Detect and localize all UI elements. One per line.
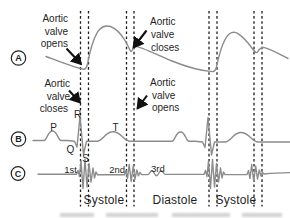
annotation-line: valve bbox=[152, 90, 176, 101]
annotation-aortic-valve-opens-right: Aortic valve opens bbox=[150, 77, 179, 113]
row-marker-c: C bbox=[11, 167, 25, 181]
ecg-label-q: Q bbox=[67, 144, 75, 155]
sound-label-2nd: 2nd bbox=[109, 164, 125, 175]
arrow-aortic-valve-opens-beat1 bbox=[67, 49, 82, 65]
annotation-line: valve bbox=[47, 91, 71, 102]
annotation-aortic-valve-opens-left: Aortic valve opens bbox=[41, 13, 69, 49]
phase-label-systole-1: Systole bbox=[84, 193, 125, 207]
phase-label-systole-2: Systole bbox=[216, 193, 257, 207]
annotation-aortic-valve-closes-top: Aortic valve closes bbox=[150, 16, 179, 53]
annotation-line: Aortic bbox=[150, 77, 176, 88]
cropped-caption-blur bbox=[56, 212, 284, 217]
ecg-label-r: R bbox=[74, 109, 81, 120]
annotation-line: Aortic bbox=[150, 16, 176, 27]
row-marker-b-letter: B bbox=[15, 134, 22, 144]
row-marker-b: B bbox=[11, 132, 25, 146]
row-marker-c-letter: C bbox=[15, 169, 22, 179]
ecg-label-s: S bbox=[82, 153, 89, 164]
annotation-line: opens bbox=[41, 38, 68, 49]
ecg-label-t: T bbox=[112, 122, 118, 133]
annotation-line: closes bbox=[151, 42, 179, 53]
cardiac-phase-labels: Systole Diastole Systole bbox=[84, 193, 257, 207]
annotation-line: opens bbox=[152, 102, 179, 113]
row-marker-a-letter: A bbox=[15, 53, 22, 63]
phase-label-diastole: Diastole bbox=[153, 193, 198, 207]
annotation-line: valve bbox=[151, 29, 175, 40]
cardiac-cycle-figure: Aortic valve opens Aortic valve closes A… bbox=[0, 0, 290, 218]
arrow-aortic-valve-closes-left bbox=[69, 91, 80, 103]
annotation-line: closes bbox=[40, 103, 68, 114]
annotation-line: Aortic bbox=[44, 78, 70, 89]
ecg-wave-labels: P Q R S T bbox=[50, 109, 118, 164]
annotation-aortic-valve-closes-left: Aortic valve closes bbox=[40, 78, 71, 114]
arrow-aortic-valve-opens-right bbox=[138, 96, 148, 109]
arrow-aortic-valve-closes-notch bbox=[134, 31, 147, 48]
row-marker-a: A bbox=[11, 51, 25, 65]
sound-label-3rd: 3rd bbox=[151, 163, 165, 174]
annotation-line: Aortic bbox=[42, 13, 68, 24]
figure-canvas: Aortic valve opens Aortic valve closes A… bbox=[0, 0, 290, 218]
annotation-line: valve bbox=[45, 26, 69, 37]
sound-label-1st: 1st bbox=[64, 164, 77, 175]
ecg-label-p: P bbox=[50, 122, 57, 133]
